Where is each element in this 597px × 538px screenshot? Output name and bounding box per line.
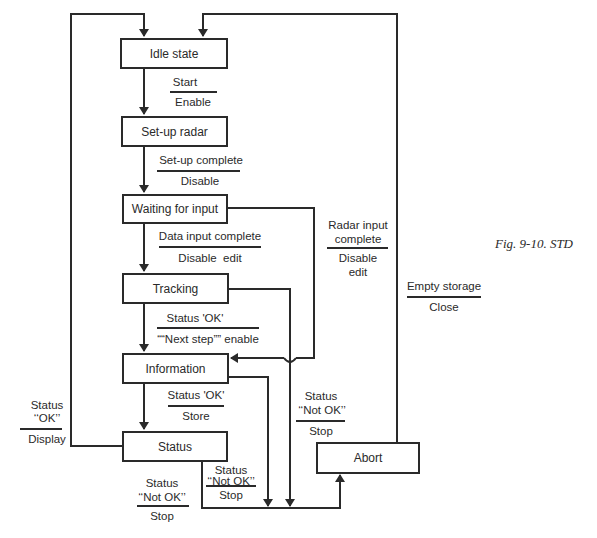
status-ok-event-1: Status [22,398,72,412]
radar-input-complete-event-1: Radar input [326,218,390,232]
transition-wires [0,0,597,538]
radar-input-complete-divider [327,247,388,249]
state-waiting-for-input: Waiting for input [122,194,228,224]
information-ok-event: Status 'OK' [164,388,228,402]
state-status-label: Status [158,440,192,454]
empty-storage-action: Close [406,300,482,314]
tracking-not-ok-event-2: ‘‘Not OK’’ [292,403,352,417]
tracking-ok-action: ““Next step”” enable [157,332,259,346]
tracking-not-ok-action: Stop [296,424,346,438]
status-ok-event-2: ‘‘OK’’ [22,411,72,425]
tracking-not-ok-event-1: Status [296,389,346,403]
status-ok-divider [20,428,62,430]
state-setup-radar-label: Set-up radar [141,125,208,139]
start-action: Enable [165,95,221,109]
setup-complete-divider [157,170,240,172]
state-status: Status [122,431,228,462]
figure-caption: Fig. 9-10. STD [495,236,573,252]
start-event: Start [160,75,210,89]
radar-input-complete-event-2: complete [326,232,390,246]
status-not-ok-inner-divider [206,485,256,487]
state-idle: Idle state [120,38,228,69]
status-not-ok-outer-divider [137,505,189,507]
state-waiting-label: Waiting for input [132,202,218,216]
empty-storage-event: Empty storage [406,279,482,293]
state-tracking-label: Tracking [153,282,199,296]
tracking-ok-event: Status 'OK' [160,311,230,325]
empty-storage-divider [407,296,481,298]
radar-input-complete-action-2: edit [326,265,390,279]
start-divider [170,91,217,93]
status-ok-action: Display [22,432,72,446]
radar-input-complete-action-1: Disable [326,251,390,265]
status-not-ok-outer-event-2: ‘‘Not OK’’ [131,490,193,504]
data-input-complete-divider [159,246,261,248]
state-abort-label: Abort [354,451,383,465]
tracking-ok-divider [157,327,259,329]
information-ok-action: Store [168,409,224,423]
setup-complete-event: Set-up complete [156,153,246,167]
tracking-not-ok-divider [296,420,345,422]
state-idle-label: Idle state [150,47,199,61]
data-input-complete-event: Data input complete [156,229,264,243]
status-not-ok-outer-event-1: Status [134,476,190,490]
setup-complete-action: Disable [170,174,230,188]
state-information-label: Information [145,362,205,376]
state-abort: Abort [316,442,420,474]
status-not-ok-inner-action: Stop [206,488,256,502]
state-information: Information [122,353,229,384]
data-input-complete-action: Disable edit [170,251,250,265]
information-ok-divider [168,405,224,407]
status-not-ok-outer-action: Stop [134,509,190,523]
state-tracking: Tracking [122,273,229,304]
state-setup-radar: Set-up radar [121,116,228,147]
